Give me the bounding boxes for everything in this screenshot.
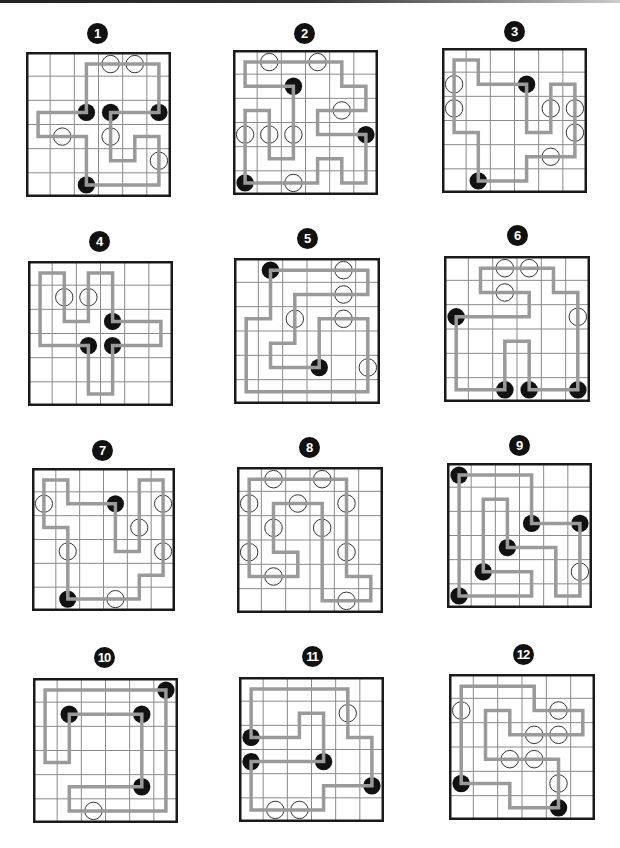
puzzle-grid-9 (447, 463, 592, 608)
puzzle-number-badge: 4 (89, 231, 110, 252)
puzzle-grid-11 (239, 677, 384, 822)
puzzle-grid-4 (28, 261, 173, 406)
puzzle-number-badge: 11 (302, 646, 323, 667)
puzzle-number-badge: 1 (87, 23, 108, 44)
puzzle-grid-3 (442, 48, 587, 193)
puzzle-grid-6 (444, 256, 590, 402)
puzzle-grid-7 (32, 468, 175, 611)
puzzle-number-badge: 6 (507, 225, 528, 246)
puzzle-grid-5 (234, 258, 380, 404)
top-rule-divider (0, 0, 620, 3)
puzzle-number-badge: 9 (509, 435, 530, 456)
puzzle-number-badge: 2 (294, 23, 315, 44)
puzzle-number-badge: 8 (299, 437, 320, 458)
puzzle-number-badge: 7 (92, 440, 113, 461)
puzzle-number-badge: 5 (297, 228, 318, 249)
puzzle-number-badge: 3 (504, 21, 525, 42)
puzzle-grid-1 (26, 52, 171, 197)
puzzle-number-badge: 10 (94, 647, 115, 668)
puzzle-grid-8 (237, 467, 383, 613)
puzzle-grid-12 (449, 674, 595, 820)
puzzle-grid-2 (233, 50, 378, 195)
puzzle-grid-10 (33, 678, 178, 823)
puzzle-number-badge: 12 (513, 644, 534, 665)
